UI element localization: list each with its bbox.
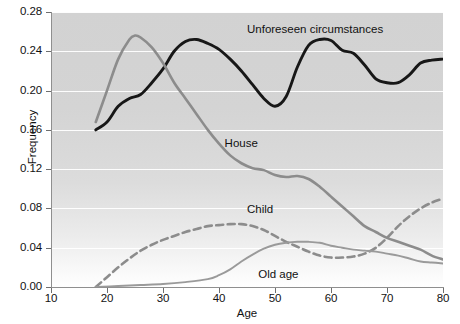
series-label-child: Child [247,203,273,215]
y-axis-title: Frequency [26,77,38,197]
series-label-old-age: Old age [258,268,298,280]
y-tick-0.24 [46,51,51,52]
y-tick-label-0.04: 0.04 [2,241,42,253]
y-tick-label-0.00: 0.00 [2,280,42,292]
x-axis-title: Age [197,307,297,319]
y-axis-line [51,12,52,288]
x-tick-label-10: 10 [36,292,66,304]
series-curves [51,12,443,287]
x-tick-label-60: 60 [316,292,346,304]
y-tick-0.16 [46,130,51,131]
y-tick-label-0.24: 0.24 [2,44,42,56]
y-tick-label-0.08: 0.08 [2,201,42,213]
x-tick-label-50: 50 [260,292,290,304]
x-tick-label-70: 70 [372,292,402,304]
x-tick-label-80: 80 [428,292,458,304]
y-tick-0.28 [46,12,51,13]
series-line-unforeseen-circumstances [96,39,443,130]
series-label-house: House [225,137,258,149]
series-label-unforeseen-circumstances: Unforeseen circumstances [247,23,383,35]
x-tick-label-30: 30 [148,292,178,304]
y-tick-0.12 [46,169,51,170]
plot-area: Unforeseen circumstancesHouseChildOld ag… [51,12,443,287]
x-tick-label-40: 40 [204,292,234,304]
y-tick-0.08 [46,208,51,209]
chart-figure: Unforeseen circumstancesHouseChildOld ag… [0,0,460,324]
x-tick-label-20: 20 [92,292,122,304]
y-tick-0.04 [46,248,51,249]
series-line-old-age [96,242,443,287]
series-line-house [96,35,443,259]
y-tick-0.20 [46,91,51,92]
x-axis-line [51,287,444,288]
y-tick-label-0.28: 0.28 [2,5,42,17]
